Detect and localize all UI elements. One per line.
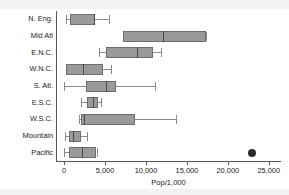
whisker-cap-high: [97, 148, 98, 157]
median-line: [73, 131, 74, 142]
x-tick-mark: [146, 162, 147, 165]
box-iqr: [70, 14, 95, 25]
y-axis-label-w-n-c: W.N.C.: [1, 65, 53, 73]
median-line: [84, 114, 85, 125]
plot-area: [56, 11, 281, 161]
median-line: [137, 47, 138, 58]
box-iqr: [81, 114, 134, 125]
box-plot-row: [56, 95, 281, 111]
whisker-cap-high: [155, 82, 156, 91]
y-axis-label-w-s-c: W.S.C.: [1, 115, 53, 123]
y-axis-category-labels: N. Eng.Mid AtlE.N.C.W.N.C.S. Atl.E.S.C.W…: [0, 11, 53, 161]
y-axis-label-mid-atl: Mid Atl: [1, 32, 53, 40]
y-axis-label-s-atl: S. Atl.: [1, 82, 53, 90]
page-band-bottom: [0, 189, 289, 195]
box-iqr: [106, 47, 153, 58]
whisker-high: [116, 86, 156, 87]
y-axis-label-n-eng: N. Eng.: [1, 15, 53, 23]
x-tick-mark: [228, 162, 229, 165]
median-line: [93, 97, 94, 108]
box-plot-row: [56, 145, 281, 161]
page-band-top: [0, 0, 289, 9]
median-line: [106, 81, 107, 92]
x-tick-mark: [269, 162, 270, 165]
whisker-cap-high: [109, 15, 110, 24]
box-plot-row: [56, 78, 281, 94]
y-axis-label-e-s-c: E.S.C.: [1, 99, 53, 107]
x-tick-label: 20,000: [217, 166, 240, 175]
whisker-cap-low: [65, 132, 66, 141]
median-line: [83, 64, 84, 75]
x-axis-title: Pop/1,000: [56, 178, 281, 187]
box-plot-row: [56, 11, 281, 27]
box-plot-row: [56, 128, 281, 144]
whisker-cap-high: [101, 98, 102, 107]
box-iqr: [123, 31, 206, 42]
y-axis-label-mountain: Mountain: [1, 132, 53, 140]
box-iqr: [69, 131, 81, 142]
x-tick-label: 10,000: [135, 166, 158, 175]
x-tick-label: 5,000: [96, 166, 115, 175]
whisker-high: [95, 19, 109, 20]
whisker-cap-low: [81, 98, 82, 107]
whisker-cap-low: [64, 82, 65, 91]
outlier-point: [248, 149, 256, 157]
whisker-low: [64, 86, 86, 87]
y-axis-label-pacific: Pacific: [1, 149, 53, 157]
x-tick-mark: [64, 162, 65, 165]
whisker-cap-low: [79, 115, 80, 124]
x-tick-label: 25,000: [257, 166, 280, 175]
box-plot-row: [56, 111, 281, 127]
box-plot-chart: N. Eng.Mid AtlE.N.C.W.N.C.S. Atl.E.S.C.W…: [0, 0, 289, 195]
whisker-cap-high: [161, 48, 162, 57]
whisker-cap-low: [64, 148, 65, 157]
whisker-high: [135, 119, 177, 120]
whisker-cap-low: [66, 15, 67, 24]
median-line: [94, 14, 95, 25]
median-line: [163, 31, 164, 42]
whisker-cap-high: [111, 65, 112, 74]
box-iqr: [86, 81, 116, 92]
whisker-cap-high: [176, 115, 177, 124]
median-line: [82, 147, 83, 158]
y-axis-label-e-n-c: E.N.C.: [1, 49, 53, 57]
whisker-cap-high: [206, 32, 207, 41]
x-tick-label: 0: [62, 166, 66, 175]
whisker-low: [99, 52, 106, 53]
whisker-high: [103, 69, 111, 70]
x-axis-ticks: 05,00010,00015,00020,00025,000: [56, 162, 281, 176]
whisker-cap-low: [99, 48, 100, 57]
box-plot-row: [56, 45, 281, 61]
box-plot-row: [56, 28, 281, 44]
x-tick-mark: [105, 162, 106, 165]
box-iqr: [66, 64, 103, 75]
x-tick-mark: [187, 162, 188, 165]
box-plot-row: [56, 61, 281, 77]
whisker-cap-high: [87, 132, 88, 141]
whisker-high: [153, 52, 161, 53]
x-tick-label: 15,000: [176, 166, 199, 175]
